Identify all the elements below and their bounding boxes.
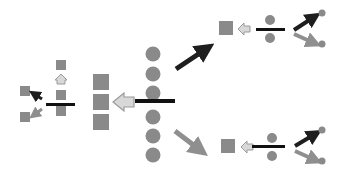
bottom-right-bar — [252, 145, 285, 148]
center-circle-2 — [146, 67, 161, 82]
bottom-right-circle-upper — [267, 133, 277, 143]
branch-gray-arrow-down — [175, 131, 200, 150]
center-square-2 — [93, 94, 109, 110]
center-circle-4 — [146, 110, 161, 125]
center-bar — [135, 99, 175, 103]
left-division-unit — [20, 60, 75, 122]
bottom-right-square — [221, 139, 235, 153]
branch-dark-arrow-up — [176, 49, 206, 69]
top-right-bar — [256, 28, 285, 31]
top-right-gray-arrow — [294, 34, 314, 43]
top-right-small-circle — [319, 10, 326, 17]
left-top-square — [56, 60, 66, 70]
bottom-right-small-circle-2 — [319, 158, 326, 165]
left-hollow-up-arrow — [55, 74, 67, 84]
top-right-dark-arrow — [294, 17, 314, 30]
center-square-1 — [93, 74, 109, 90]
top-right-small-circle-2 — [319, 41, 326, 48]
left-mid-lower-square — [56, 106, 66, 116]
bottom-right-dark-arrow — [295, 134, 315, 146]
left-upper-square — [20, 86, 30, 96]
left-bar — [46, 103, 75, 106]
center-circle-5 — [146, 129, 161, 144]
center-circles — [135, 47, 175, 163]
division-diagram — [0, 0, 343, 174]
bottom-right-division-unit — [221, 127, 326, 165]
bottom-right-hollow-arrow — [241, 141, 253, 153]
top-right-square — [219, 21, 233, 35]
bottom-right-gray-arrow — [295, 151, 315, 160]
top-right-hollow-arrow — [238, 23, 250, 35]
center-square-3 — [93, 114, 109, 130]
center-squares — [93, 74, 109, 130]
center-circle-6 — [146, 148, 161, 163]
left-gray-arrow — [34, 109, 42, 115]
center-circle-3 — [146, 86, 161, 101]
left-dark-arrow — [34, 94, 42, 99]
left-lower-square — [20, 112, 30, 122]
top-right-circle-lower — [265, 33, 275, 43]
bottom-right-circle-lower — [267, 151, 277, 161]
bottom-right-small-circle — [319, 127, 326, 134]
top-right-division-unit — [219, 10, 326, 48]
center-circle-1 — [146, 47, 161, 62]
top-right-circle-upper — [265, 15, 275, 25]
left-mid-upper-square — [56, 90, 66, 100]
center-hollow-left-arrow — [113, 93, 134, 111]
